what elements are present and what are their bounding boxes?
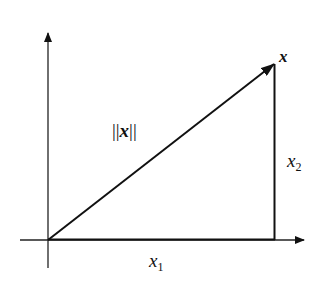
x2-label: x2 bbox=[287, 151, 301, 173]
norm-bar-left: || bbox=[112, 120, 120, 141]
norm-bar-right: || bbox=[129, 120, 137, 141]
norm-label: ||x|| bbox=[112, 121, 137, 140]
vector-diagram bbox=[0, 0, 322, 288]
norm-var: x bbox=[120, 120, 130, 141]
x2-subscript: 2 bbox=[295, 160, 301, 174]
vector-label-text: x bbox=[279, 47, 288, 66]
vector-x-arrow bbox=[48, 64, 274, 240]
x1-label: x1 bbox=[149, 251, 163, 273]
vector-label: x bbox=[279, 48, 288, 65]
x1-subscript: 1 bbox=[157, 260, 163, 274]
